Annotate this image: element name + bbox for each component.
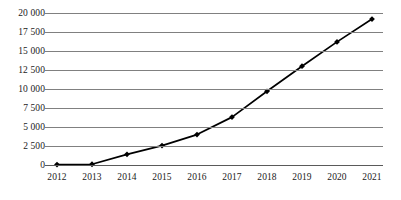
x-axis-tick-label: 2016 <box>187 172 206 182</box>
y-axis-tick-label: 12 500 <box>18 65 45 75</box>
y-axis: 02 5005 0007 50010 00012 50015 00017 500… <box>0 0 45 200</box>
x-axis-tick-label: 2015 <box>152 172 171 182</box>
line-chart: 02 5005 0007 50010 00012 50015 00017 500… <box>0 0 401 200</box>
y-axis-tick-label: 2 500 <box>23 141 45 151</box>
x-axis-tick-label: 2020 <box>327 172 346 182</box>
y-axis-tick-label: 10 000 <box>18 84 45 94</box>
y-axis-tick-label: 7 500 <box>23 103 45 113</box>
x-axis-tick-label: 2013 <box>82 172 101 182</box>
y-axis-tick-label: 5 000 <box>23 122 45 132</box>
x-axis-tick-label: 2014 <box>117 172 136 182</box>
x-axis-tick-label: 2018 <box>257 172 276 182</box>
x-axis-tick-label: 2017 <box>222 172 241 182</box>
y-axis-tick-label: 17 500 <box>18 27 45 37</box>
y-axis-tick-label: 15 000 <box>18 46 45 56</box>
x-axis-tick-label: 2019 <box>292 172 311 182</box>
x-axis-tick-label: 2021 <box>362 172 381 182</box>
y-axis-tick-label: 20 000 <box>18 8 45 18</box>
x-axis-tick-label: 2012 <box>47 172 66 182</box>
x-axis: 2012201320142015201620172018201920202021 <box>49 0 383 200</box>
